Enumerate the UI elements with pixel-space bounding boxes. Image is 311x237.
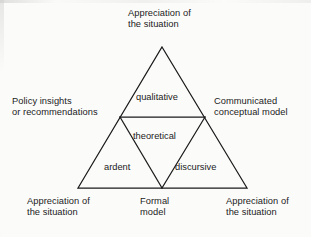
inner-label-ardent: ardent [104, 162, 130, 173]
midline-right-diagonal [162, 117, 205, 188]
inner-label-theoretical: theoretical [133, 131, 176, 142]
inner-label-discursive: discursive [175, 162, 216, 173]
label-formal-model: Formal model [140, 196, 169, 219]
label-communicated-conceptual-model: Communicated conceptual model [214, 96, 288, 119]
label-appreciation-top: Appreciation of the situation [128, 8, 191, 31]
label-appreciation-bottom-right: Appreciation of the situation [226, 196, 289, 219]
label-appreciation-bottom-left: Appreciation of the situation [27, 196, 90, 219]
midline-left-diagonal [120, 117, 162, 188]
label-policy-insights: Policy insights or recommendations [12, 96, 98, 119]
inner-label-qualitative: qualitative [136, 92, 178, 103]
diagram-canvas: Appreciation of the situation Policy ins… [0, 0, 311, 237]
